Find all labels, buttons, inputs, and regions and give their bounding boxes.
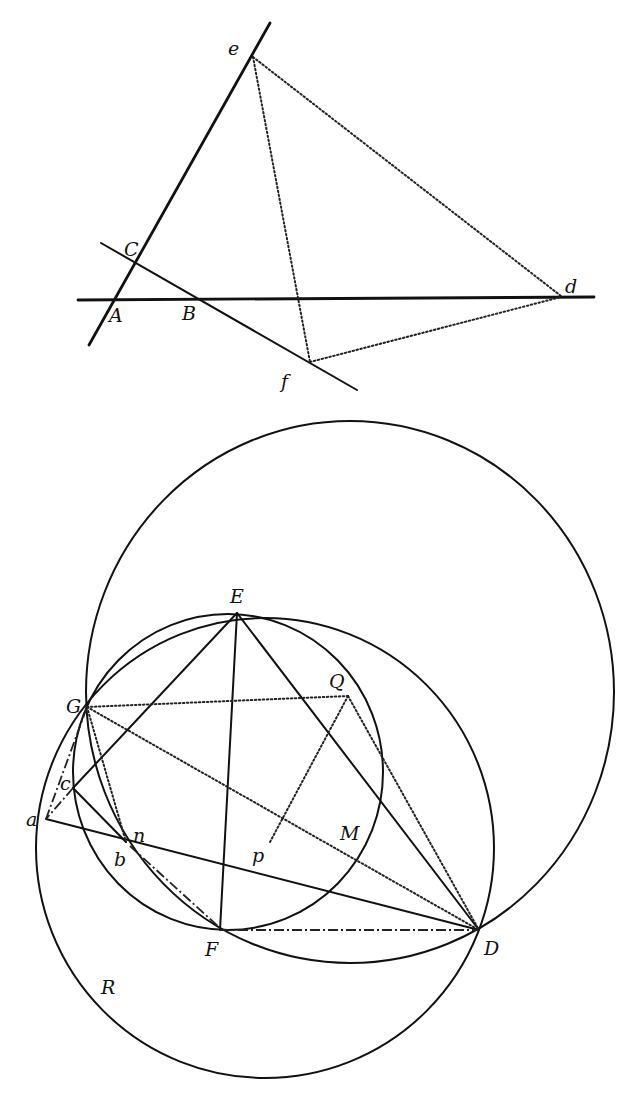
line-G-Q [87, 696, 348, 707]
line-E-F [220, 613, 237, 930]
label-a: a [26, 808, 37, 830]
geometric-figure: e C A B d f E G Q c a n b [0, 0, 638, 1111]
line-Q-D [348, 696, 479, 930]
lower-figure: E G Q c a n b p M F D R [26, 421, 614, 1078]
label-D: D [483, 937, 499, 959]
circle-R [36, 618, 494, 1078]
line-A-B-d [78, 297, 594, 300]
line-f-d [310, 297, 561, 362]
label-E: E [229, 585, 244, 607]
label-c: c [60, 772, 71, 794]
label-G: G [66, 695, 81, 717]
label-F: F [204, 938, 219, 960]
label-B: B [181, 302, 196, 324]
label-b: b [114, 848, 126, 870]
line-Q-p [270, 696, 348, 842]
line-E-c [73, 613, 237, 788]
label-d: d [565, 275, 577, 297]
label-p: p [252, 844, 264, 866]
line-e-f [253, 57, 310, 362]
label-Q: Q [329, 670, 345, 692]
label-n: n [133, 824, 145, 846]
line-E-D [237, 613, 479, 930]
line-e-d [253, 57, 561, 296]
label-R: R [100, 976, 115, 998]
upper-figure: e C A B d f [78, 23, 594, 392]
line-A-C-e [89, 23, 270, 345]
label-e: e [228, 37, 239, 59]
line-C-B-f [101, 243, 357, 390]
label-A: A [107, 304, 123, 326]
label-f: f [279, 370, 291, 392]
line-G-D [87, 707, 479, 930]
label-C: C [124, 238, 139, 260]
label-M: M [339, 822, 360, 844]
line-n-F [130, 846, 220, 928]
big-circle [86, 421, 614, 963]
